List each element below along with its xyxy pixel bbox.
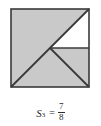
equation: S3 = 7 8 bbox=[36, 103, 65, 123]
fraction-numerator: 7 bbox=[58, 102, 65, 111]
series-subscript: 3 bbox=[42, 112, 46, 119]
fraction: 7 8 bbox=[58, 102, 65, 122]
fraction-denominator: 8 bbox=[58, 113, 65, 122]
figure-container bbox=[0, 0, 101, 101]
caption: S3 = 7 8 bbox=[0, 100, 101, 126]
partial-sum-square-diagram bbox=[0, 0, 101, 101]
equals-sign: = bbox=[49, 108, 55, 118]
